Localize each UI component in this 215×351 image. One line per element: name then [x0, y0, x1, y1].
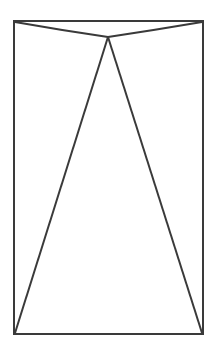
triangle-right-side: [108, 37, 202, 333]
top-right-curve: [108, 22, 202, 37]
diagram-canvas: [0, 0, 215, 351]
outer-rectangle: [14, 21, 203, 334]
top-left-curve: [15, 22, 108, 37]
triangle-left-side: [15, 37, 108, 333]
